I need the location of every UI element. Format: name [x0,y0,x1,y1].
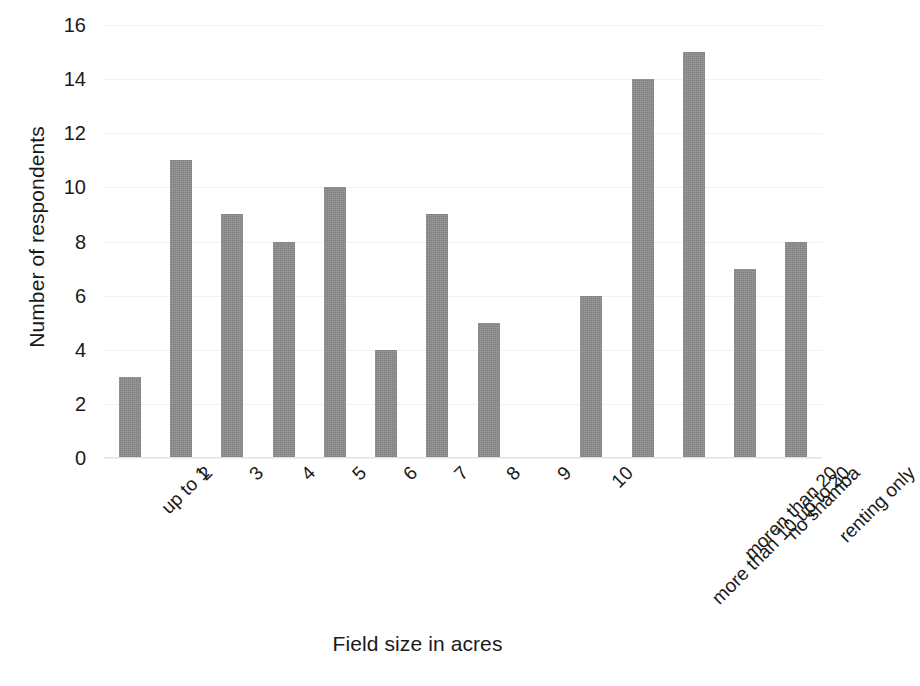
bar[interactable] [683,52,705,458]
bar[interactable] [119,377,141,458]
y-axis-tick-label: 16 [0,14,96,37]
plot-area [104,25,822,458]
x-axis-line [104,457,822,458]
x-axis-tick-label: 7 [450,462,473,485]
bar[interactable] [170,160,192,458]
y-axis-tick-label: 8 [0,230,96,253]
bars-layer [104,25,822,458]
x-axis-tick-labels: up to 12345678910more than 10 up to 20mo… [104,462,822,632]
x-axis-tick-label: 3 [245,462,268,485]
y-axis-tick-label: 2 [0,392,96,415]
x-axis-tick-label: 10 [607,462,638,493]
x-axis-tick-label: 8 [502,462,525,485]
x-axis-title: Field size in acres [0,632,835,656]
bar[interactable] [324,187,346,458]
x-axis-tick-label: 4 [297,462,320,485]
y-axis-tick-label: 12 [0,122,96,145]
x-axis-tick-label: 9 [553,462,576,485]
bar[interactable] [734,269,756,458]
y-axis-tick-label: 14 [0,68,96,91]
bar[interactable] [426,214,448,458]
x-axis-tick-label: 6 [399,462,422,485]
bar[interactable] [785,242,807,459]
y-axis-tick-label: 10 [0,176,96,199]
gridline [104,458,822,459]
x-axis-tick-label: 5 [348,462,371,485]
y-axis-tick-label: 0 [0,447,96,470]
y-axis-tick-label: 4 [0,338,96,361]
bar[interactable] [375,350,397,458]
y-axis-tick-labels: 0246810121416 [0,0,96,686]
bar[interactable] [632,79,654,458]
bar[interactable] [478,323,500,458]
bar[interactable] [221,214,243,458]
y-axis-tick-label: 6 [0,284,96,307]
bar[interactable] [273,242,295,459]
bar[interactable] [580,296,602,458]
